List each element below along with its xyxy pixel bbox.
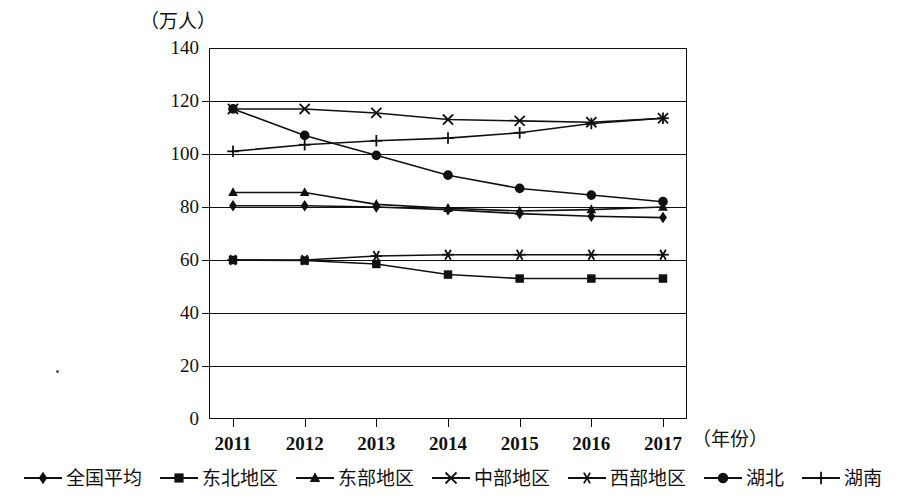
x-tick-label: 2013 [357,433,395,455]
legend-label: 湖北 [746,469,784,488]
diamond-marker [23,469,63,487]
x-tick-label: 2012 [286,433,324,455]
x-tick-label: 2011 [215,433,252,455]
y-axis-unit-label: （万人） [140,6,216,33]
series-layer [209,48,687,419]
legend-item-2[interactable]: 东部地区 [295,469,414,488]
legend-item-0[interactable]: 全国平均 [23,469,142,488]
y-tick-mark [202,366,209,367]
y-tick-label: 120 [171,90,200,112]
circle-marker [703,469,743,487]
legend-item-1[interactable]: 东北地区 [159,469,278,488]
x-tick-mark [520,419,521,427]
line-chart: （万人） 140120100806040200 2011201220132014… [0,0,905,496]
y-tick-mark [202,207,209,208]
y-tick-mark [202,154,209,155]
stray-speck [56,370,59,373]
x-tick-mark [305,419,306,427]
x-tick-mark [376,419,377,427]
legend-item-4[interactable]: 西部地区 [567,469,686,488]
y-tick-label: 140 [171,37,200,59]
x-tick-label: 2015 [501,433,539,455]
plot-area: 140120100806040200 201120122013201420152… [209,48,687,419]
legend-item-3[interactable]: 中部地区 [431,469,550,488]
x-tick-label: 2016 [572,433,610,455]
x-tick-label: 2017 [644,433,682,455]
x-tick-mark [663,419,664,427]
y-tick-label: 60 [180,249,199,271]
y-tick-mark [202,260,209,261]
x-tick-mark [448,419,449,427]
y-tick-label: 100 [171,143,200,165]
series-asterisk [227,250,669,265]
y-tick-label: 40 [180,302,199,324]
legend-item-5[interactable]: 湖北 [703,469,784,488]
plus-marker [801,469,841,487]
series-triangle [228,187,668,215]
y-tick-mark [202,101,209,102]
square-marker [159,469,199,487]
y-tick-label: 20 [180,355,199,377]
y-tick-label: 0 [190,408,200,430]
asterisk-marker [567,469,607,487]
x-axis-title: （年份） [692,424,768,451]
triangle-marker [295,469,335,487]
legend-label: 湖南 [844,469,882,488]
cross-x-marker [431,469,471,487]
x-tick-label: 2014 [429,433,467,455]
chart-legend: 全国平均东北地区东部地区中部地区西部地区湖北湖南 [0,462,905,494]
y-tick-label: 80 [180,196,199,218]
x-tick-mark [591,419,592,427]
legend-label: 中部地区 [474,469,550,488]
legend-label: 全国平均 [66,469,142,488]
legend-label: 东部地区 [338,469,414,488]
y-tick-mark [202,313,209,314]
legend-label: 西部地区 [610,469,686,488]
legend-item-6[interactable]: 湖南 [801,469,882,488]
series-cross-x [228,104,668,127]
legend-label: 东北地区 [202,469,278,488]
x-tick-mark [233,419,234,427]
